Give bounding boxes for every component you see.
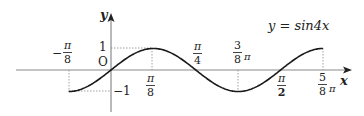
x-label-pi-8: π 8 <box>146 73 155 98</box>
y-tick-1: 1 <box>99 41 107 53</box>
denominator: 8 <box>64 53 71 65</box>
numerator: π <box>63 40 72 52</box>
origin-label: O <box>98 56 108 68</box>
pi-suffix: π <box>244 51 251 62</box>
pi-suffix: π <box>329 83 336 94</box>
denominator: 2 <box>278 86 286 98</box>
numerator: π <box>193 41 202 53</box>
numerator: π <box>277 73 286 85</box>
denominator: 4 <box>194 54 201 66</box>
x-label-3-8-pi: 3 8 <box>233 40 242 65</box>
y-axis-label: y <box>100 7 108 22</box>
neg-sign: − <box>52 47 62 59</box>
y-tick-neg1: −1 <box>113 85 131 97</box>
denominator: 8 <box>319 85 326 97</box>
numerator: 3 <box>233 40 242 52</box>
x-label-neg-pi-8: π 8 <box>63 40 72 65</box>
denominator: 8 <box>234 53 241 65</box>
denominator: 8 <box>147 86 154 98</box>
x-label-pi-4: π 4 <box>193 41 202 66</box>
x-label-pi-2: π 2 <box>277 73 286 98</box>
numerator: π <box>146 73 155 85</box>
equation-label: y = sin4x <box>268 19 329 32</box>
x-label-5-8-pi: 5 8 <box>318 72 327 97</box>
numerator: 5 <box>318 72 327 84</box>
x-axis-label: x <box>340 73 348 88</box>
